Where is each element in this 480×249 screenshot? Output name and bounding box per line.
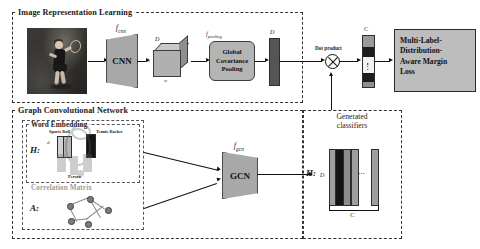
generated-classifiers-title: Generated classifiers [313, 112, 391, 131]
loss-line-4: Loss [400, 67, 470, 77]
dot-product-label: Dot product [315, 45, 342, 51]
arrow-scores-to-loss-head [389, 58, 393, 62]
loss-line-1: Multi-Label- [400, 36, 470, 46]
watermark-ring [71, 124, 91, 140]
classifier-bar [371, 149, 379, 206]
graph-node [85, 221, 92, 228]
cube-height-label: h [147, 58, 150, 63]
loss-line-2: Distribution- [400, 46, 470, 56]
cube-front-face [153, 50, 181, 77]
gcn-block: fgcn GCN [222, 152, 256, 197]
word-embedding-matrix-label: H: [30, 145, 40, 155]
photo-grain [27, 28, 87, 94]
graph-convolutional-network-title: Graph Convolutional Network [16, 106, 130, 115]
word-embedding-watermark [55, 126, 110, 180]
classifier-row-dim-label: D [320, 172, 324, 178]
correlation-graph [62, 196, 114, 230]
cube-width-label: w [164, 78, 167, 83]
ellipsis-dot [367, 63, 369, 65]
image-feature-vector [269, 38, 280, 86]
pooling-fn-subscript: pooling [208, 34, 222, 39]
arrow-classifiers-to-dotproduct-head [329, 72, 333, 76]
graph-node [67, 203, 74, 210]
ellipsis-dot [367, 66, 369, 68]
cnn-fn-subscript: cnn [118, 28, 126, 34]
input-image-photo [27, 28, 87, 94]
classifier-ellipsis: ⋯ [358, 170, 366, 178]
cnn-function-label: fcnn [116, 23, 126, 34]
pooling-function-label: fpooling [206, 31, 222, 39]
generated-classifiers-title-line2: classifiers [313, 121, 391, 130]
figure-canvas: Image Representation Learning fcnn CNN [0, 0, 480, 249]
graph-node [68, 218, 75, 225]
score-vector-ellipsis [367, 63, 369, 70]
graph-node [87, 196, 94, 203]
loss-line-3: Aware Margin [400, 57, 470, 67]
loss-block: Multi-Label- Distribution- Aware Margin … [394, 29, 476, 92]
arrow-scores-to-loss [374, 61, 390, 62]
dot-product-operator [325, 54, 340, 69]
correlation-matrix-title: Correlation Matrix [29, 184, 94, 192]
watermark-rect [83, 154, 92, 172]
gcn-label: GCN [230, 171, 250, 181]
arrow-feature-to-dotproduct [279, 61, 322, 62]
arrow-classifiers-to-dotproduct [331, 76, 332, 110]
generated-classifiers-title-line1: Generated [313, 112, 391, 121]
gcn-trapezoid: GCN [222, 152, 258, 199]
cnn-label: CNN [112, 56, 132, 66]
pooling-line-3: Pooling [221, 65, 242, 73]
arrow-dotproduct-to-scores-head [357, 58, 361, 62]
cnn-trapezoid: CNN [106, 34, 138, 88]
global-covariance-pooling-block: Global Covariance Pooling [209, 41, 255, 81]
image-feature-vector-label: D [270, 29, 274, 35]
arrow-cube-to-pooling [191, 61, 206, 62]
pooling-line-2: Covariance [216, 57, 248, 65]
arrow-dotproduct-to-scores [339, 61, 358, 62]
gcn-fn-subscript: gcn [236, 146, 244, 152]
score-segment [363, 73, 374, 82]
ellipsis-dot [367, 69, 369, 71]
score-segment [363, 36, 374, 47]
watermark-rect [57, 154, 66, 172]
arrow-pooling-to-feature-vector [254, 61, 265, 62]
arrow-photo-to-cnn [88, 61, 104, 62]
arrow-cnn-to-cube [137, 61, 146, 62]
word-embedding-dim-label: d [47, 140, 50, 145]
cube-depth-label: D [155, 36, 159, 42]
graph-node [105, 207, 112, 214]
score-segment [363, 57, 374, 72]
pooling-line-1: Global [222, 48, 241, 56]
image-representation-learning-title: Image Representation Learning [16, 8, 134, 17]
correlation-matrix-label: A: [30, 203, 39, 213]
classifier-bar [343, 149, 351, 206]
feature-map-cube [153, 43, 189, 77]
score-segment [363, 47, 374, 57]
score-segment [363, 82, 374, 87]
gcn-function-label: fgcn [234, 141, 244, 152]
classifier-matrix-label: H: [306, 168, 316, 178]
classifier-col-dim-label: C [350, 211, 355, 219]
class-score-vector-label: C [364, 26, 368, 32]
cnn-block: fcnn CNN [106, 34, 136, 86]
watermark-ball [77, 170, 84, 177]
